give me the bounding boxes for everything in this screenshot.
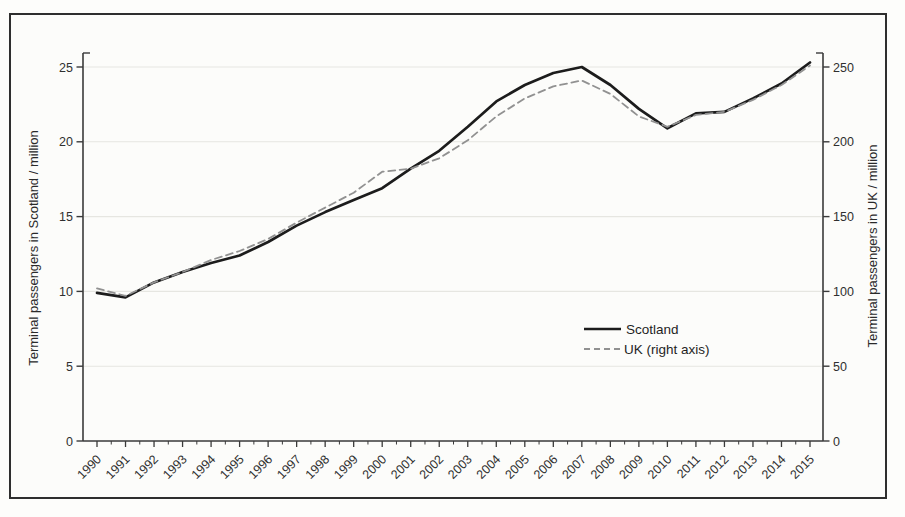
x-tick-label-2009: 2009	[616, 452, 646, 482]
x-tick-label-1992: 1992	[132, 452, 162, 482]
x-tick-label-2000: 2000	[360, 452, 390, 482]
y-left-tick-label-0: 0	[66, 435, 73, 449]
legend: Scotland UK (right axis)	[584, 322, 710, 357]
legend-scotland-label: Scotland	[626, 322, 679, 337]
y-axis-left-title: Terminal passengers in Scotland / millio…	[26, 130, 41, 366]
y-left-tick-label-20: 20	[59, 135, 73, 149]
x-tick-label-1994: 1994	[189, 452, 219, 482]
y-left-tick-label-15: 15	[59, 210, 73, 224]
x-tick-label-2001: 2001	[388, 452, 418, 482]
x-tick-label-2014: 2014	[759, 452, 789, 482]
x-tick-label-1990: 1990	[75, 452, 105, 482]
x-tick-label-2015: 2015	[788, 452, 818, 482]
x-tick-label-2012: 2012	[702, 452, 732, 482]
y-left-tick-label-10: 10	[59, 285, 73, 299]
data-series	[97, 63, 810, 298]
y-right-tick-label-200: 200	[833, 135, 854, 149]
x-tick-label-1998: 1998	[303, 452, 333, 482]
legend-uk-label: UK (right axis)	[624, 342, 710, 357]
x-tick-label-1999: 1999	[331, 452, 361, 482]
y-right-tick-label-50: 50	[833, 360, 847, 374]
axes: 0510152025050100150200250199019911992199…	[59, 53, 854, 482]
x-tick-label-2011: 2011	[674, 452, 703, 481]
x-tick-label-2007: 2007	[559, 452, 589, 482]
x-tick-label-1991: 1991	[103, 452, 133, 482]
x-tick-label-1996: 1996	[246, 452, 276, 482]
x-tick-label-1993: 1993	[160, 452, 190, 482]
series-line-uk-right-axis	[97, 66, 810, 296]
y-axis-right-title: Terminal passengers in UK / million	[865, 144, 880, 347]
x-tick-label-2013: 2013	[731, 452, 761, 482]
x-tick-label-2005: 2005	[502, 452, 532, 482]
x-tick-label-2006: 2006	[531, 452, 561, 482]
x-tick-label-1995: 1995	[217, 452, 247, 482]
y-right-tick-label-150: 150	[833, 210, 854, 224]
x-tick-label-2010: 2010	[645, 452, 675, 482]
line-chart: 0510152025050100150200250199019911992199…	[0, 0, 905, 517]
y-right-tick-label-0: 0	[833, 435, 840, 449]
y-right-tick-label-100: 100	[833, 285, 854, 299]
y-left-tick-label-25: 25	[59, 61, 73, 75]
x-tick-label-2002: 2002	[417, 452, 447, 482]
y-right-tick-label-250: 250	[833, 61, 854, 75]
x-tick-label-2003: 2003	[445, 452, 475, 482]
x-tick-label-2008: 2008	[588, 452, 618, 482]
x-tick-label-1997: 1997	[274, 452, 304, 482]
x-tick-label-2004: 2004	[474, 452, 504, 482]
scanned-figure-page: 0510152025050100150200250199019911992199…	[0, 0, 905, 517]
y-left-tick-label-5: 5	[66, 360, 73, 374]
